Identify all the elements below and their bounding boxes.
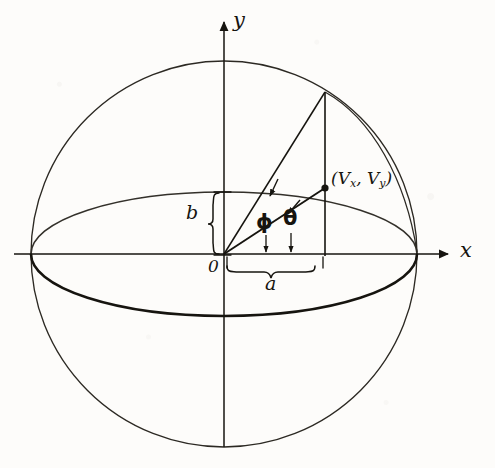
point-label-comma: , V [356, 168, 379, 188]
figure-root: x y 0 b a ϕ θ (Vx, Vy) [0, 0, 495, 468]
diagram-canvas [0, 0, 495, 468]
point-vx-vy-marker [321, 184, 328, 191]
ray-phi [224, 92, 325, 254]
semi-major-axis-label: a [265, 274, 276, 293]
angle-phi-label: ϕ [256, 212, 273, 233]
ray-theta [224, 188, 325, 254]
origin-label: 0 [208, 258, 219, 275]
semi-minor-axis-label: b [186, 203, 198, 222]
brace-b [208, 192, 231, 255]
angle-theta-label: θ [283, 208, 297, 229]
x-axis-label: x [460, 240, 472, 261]
point-label-close: ) [385, 168, 392, 188]
point-vx-vy-label: (Vx, Vy) [331, 170, 392, 189]
y-axis-label: y [233, 10, 245, 31]
point-label-open: (V [331, 168, 350, 188]
